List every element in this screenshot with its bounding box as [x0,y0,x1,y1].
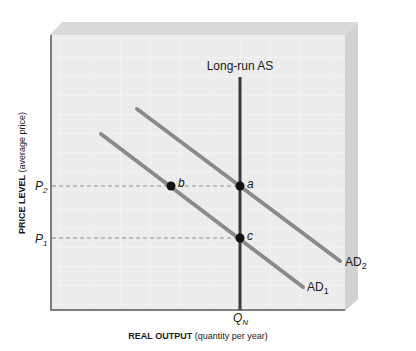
lras-label: Long-run AS [207,59,274,73]
point-c [236,234,245,243]
point-b-label: b [178,176,185,190]
qn-tick-label: QN [233,311,248,327]
point-c-label: c [247,229,253,243]
ad2-label: AD2 [345,255,367,271]
ad-as-diagram: a b c Long-run AS AD2 AD1 P2 P1 QN REAL … [0,0,416,351]
p2-tick-label: P2 [35,179,48,195]
point-b [167,182,176,191]
point-a [236,182,245,191]
point-a-label: a [247,177,254,191]
panel-top-bevel [50,22,358,35]
y-axis-title: PRICE LEVEL (average price) [17,112,27,234]
x-axis-title: REAL OUTPUT (quantity per year) [128,331,267,341]
plot-grid [50,35,345,311]
p1-tick-label: P1 [35,232,47,248]
